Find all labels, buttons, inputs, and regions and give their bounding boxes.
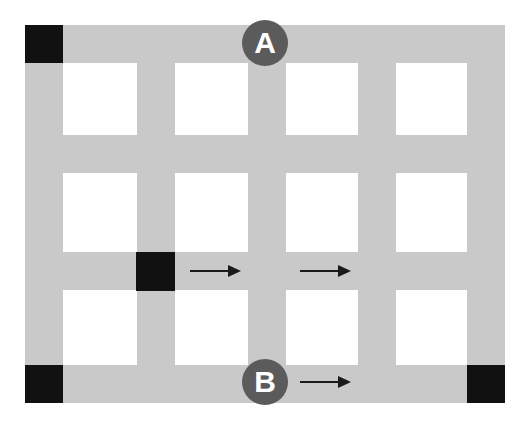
arrow-1: [190, 261, 241, 281]
arrow-3: [300, 372, 351, 392]
arrow-2: [300, 261, 351, 281]
vertical-road-5: [467, 25, 505, 403]
marker-a: A: [242, 20, 288, 66]
block-bottom-right: [467, 365, 505, 403]
block-center-left: [136, 252, 175, 291]
marker-b-label: B: [254, 367, 276, 397]
grid-diagram-canvas: A B: [0, 0, 523, 426]
block-top-left: [25, 25, 63, 63]
vertical-road-1: [25, 25, 63, 403]
vertical-road-2: [137, 25, 175, 403]
vertical-road-3: [248, 25, 286, 403]
block-bottom-left: [25, 365, 63, 403]
marker-b: B: [242, 359, 288, 405]
vertical-road-4: [358, 25, 396, 403]
marker-a-label: A: [254, 28, 276, 58]
